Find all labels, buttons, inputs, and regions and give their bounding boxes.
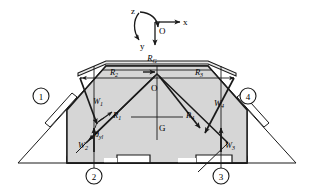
base-gap-right [178, 158, 196, 163]
node-4-label: 4 [246, 92, 251, 102]
R3-label-sub: 3 [199, 72, 203, 78]
y-axis-label: y [140, 41, 145, 51]
support-node-3[interactable]: 3 [213, 168, 229, 184]
figure-canvas: x y z O [0, 0, 314, 189]
node-2-label: 2 [92, 172, 97, 182]
point-G-label: G [159, 123, 166, 133]
W3-label-sub: 3 [231, 145, 235, 151]
support-node-2[interactable]: 2 [86, 168, 102, 184]
base-pad-left [117, 155, 150, 163]
point-O-label: O [151, 83, 158, 93]
R4-label-sub: 4 [191, 115, 194, 121]
W4-label-sub: 4 [221, 103, 224, 109]
support-node-4[interactable]: 4 [240, 88, 256, 104]
R2-label-sub: 2 [115, 72, 118, 78]
origin-frame-label: O [159, 26, 166, 36]
free-body-diagram: x y z O [0, 0, 314, 189]
theta-yl-sub: yl [98, 134, 104, 140]
node-1-label: 1 [39, 92, 44, 102]
x-axis-label: x [183, 17, 188, 27]
z-axis-label: z [131, 6, 135, 16]
node-3-label: 3 [219, 172, 224, 182]
base-gap-left [104, 158, 117, 163]
W2-label-sub: 2 [85, 145, 88, 151]
W1-label-sub: 1 [100, 101, 103, 107]
R1-label-sub: 1 [118, 115, 121, 121]
RG-label-sub: G [152, 58, 157, 64]
support-node-1[interactable]: 1 [33, 88, 49, 104]
